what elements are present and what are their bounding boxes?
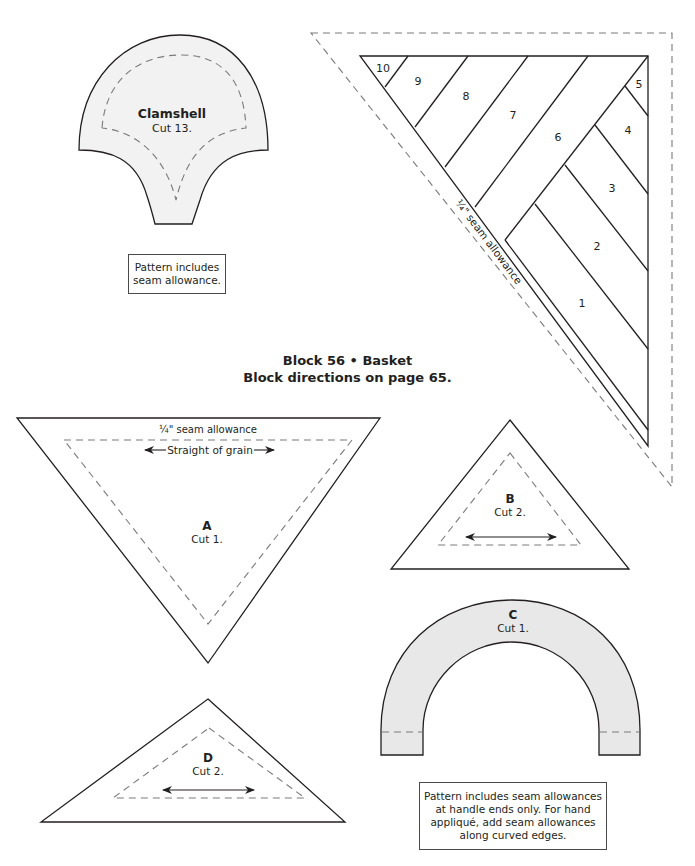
note-line: Pattern includes seam allowances [420, 790, 606, 803]
seam-line [475, 56, 588, 207]
block-directions: Block directions on page 65. [0, 369, 695, 386]
piece-c-cut-count: Cut 1. [497, 622, 528, 634]
clamshell-note-text: Pattern includes seam allowance. [133, 261, 221, 286]
segment-number: 3 [609, 182, 616, 195]
pattern-sheet: Clamshell Cut 13. 10 9 8 7 6 5 4 3 2 1 ¼… [0, 0, 695, 866]
piece-b-cut-count: Cut 2. [494, 506, 525, 518]
piece-d-cut-count: Cut 2. [192, 765, 223, 777]
segment-number: 10 [376, 62, 390, 75]
clamshell-cut-count: Cut 13. [152, 122, 192, 135]
foundation-seam-allowance-line [311, 33, 672, 487]
note-line: appliqué, add seam allowances [420, 816, 606, 829]
segment-number: 5 [636, 78, 643, 91]
segment-number: 4 [625, 124, 632, 137]
segment-number: 2 [594, 240, 601, 253]
note-line: at handle ends only. For hand [420, 803, 606, 816]
foundation-seam-allowance-label: ¼" seam allowance [453, 197, 525, 286]
piece-b-letter: B [505, 492, 514, 506]
seam-line [505, 240, 648, 430]
piece-a-grain-label: Straight of grain [167, 444, 253, 456]
foundation-triangle [311, 33, 672, 487]
seam-line [565, 165, 648, 271]
segment-number: 1 [579, 297, 586, 310]
piece-a-letter: A [202, 519, 212, 533]
segment-number: 6 [555, 131, 562, 144]
segment-number: 7 [510, 109, 517, 122]
clamshell-note: Pattern includes seam allowance. [128, 254, 226, 294]
piece-d-template [41, 699, 345, 822]
piece-a-seam-allowance-label: ¼" seam allowance [159, 424, 257, 435]
segment-number: 9 [415, 75, 422, 88]
piece-a-cut-count: Cut 1. [191, 533, 222, 545]
piece-d-letter: D [203, 751, 213, 765]
seam-line [505, 56, 648, 240]
piece-c-letter: C [509, 608, 518, 622]
piece-d-cutting-line [41, 699, 345, 822]
seam-line [595, 125, 648, 194]
clamshell-name: Clamshell [138, 106, 206, 121]
segment-number: 8 [463, 90, 470, 103]
block-title: Block 56 • Basket [0, 352, 695, 369]
note-line: along curved edges. [420, 829, 606, 842]
seam-line [535, 204, 648, 349]
seam-line [415, 56, 468, 127]
piece-c-note: Pattern includes seam allowances at hand… [419, 782, 607, 850]
